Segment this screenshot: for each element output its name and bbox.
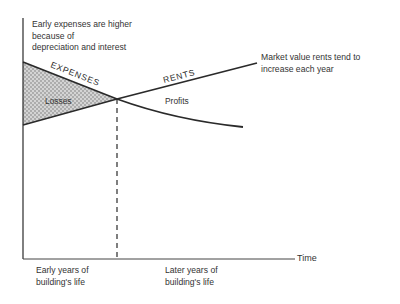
- later-years-label: Later years of building's life: [165, 265, 218, 288]
- profits-label: Profits: [165, 96, 189, 108]
- early-expenses-note: Early expenses are higher because of dep…: [32, 19, 132, 54]
- x-axis-label: Time: [297, 253, 317, 265]
- early-years-label: Early years of building's life: [36, 265, 89, 288]
- losses-label: Losses: [45, 96, 72, 108]
- market-rents-note: Market value rents tend to increase each…: [261, 52, 360, 75]
